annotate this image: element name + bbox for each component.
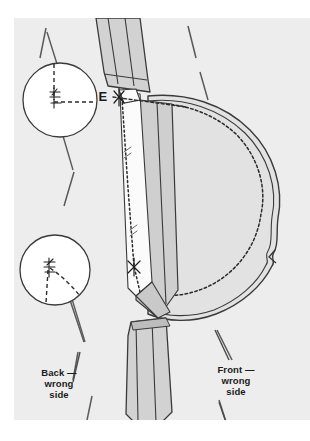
lower-circle-outline: [20, 235, 90, 305]
upper-circle-outline: [23, 63, 97, 137]
sewing-diagram-figure: E Back — wrong side Front — wrong side: [0, 0, 310, 441]
placket-lower-shape: [126, 318, 172, 424]
placket-band-lower: [126, 318, 172, 424]
diagram-canvas: [0, 0, 310, 441]
